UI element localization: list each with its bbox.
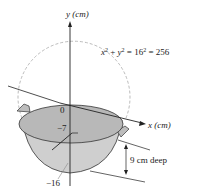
inner-depth-label: −7 <box>57 123 67 133</box>
y-axis-arrow-icon <box>68 21 72 27</box>
x-axis-label: x (cm) <box>147 120 171 130</box>
origin-label: 0 <box>60 105 65 115</box>
bowl-rim <box>19 105 123 143</box>
depth-arrow-up-icon <box>124 144 128 149</box>
depth-line-bottom <box>90 171 145 182</box>
wok-diagram: y (cm) x (cm) x2 + y2 = 162 = 256 0 −7 −… <box>0 0 199 191</box>
depth-arrow-down-icon <box>124 170 128 175</box>
depth-label: 9 cm deep <box>130 155 167 165</box>
plane-line-left <box>8 86 60 103</box>
equation-label: x2 + y2 = 162 = 256 <box>100 47 170 57</box>
y-axis-label: y (cm) <box>65 9 89 19</box>
bottom-depth-label: −16 <box>46 178 61 188</box>
x-axis-arrow-icon <box>139 121 146 126</box>
depth-line-top <box>118 140 150 150</box>
